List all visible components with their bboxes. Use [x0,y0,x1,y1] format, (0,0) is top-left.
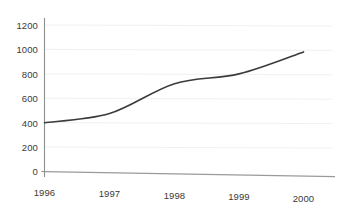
x-tick-label-2000: 2000 [284,193,324,204]
series-line-path [45,52,304,123]
y-tick-label-600: 600 [8,93,38,104]
x-tick-label-1998: 1998 [155,190,195,201]
data-series-1 [45,52,304,123]
y-tick-label-1200: 1200 [8,20,38,31]
y-tick-label-800: 800 [8,69,38,80]
x-axis [45,172,336,177]
y-tick-label-0: 0 [8,166,38,177]
y-tick-label-400: 400 [8,118,38,129]
chart-canvas [0,0,343,212]
y-tick-label-200: 200 [8,142,38,153]
x-tick-label-1996: 1996 [25,187,65,198]
horizontal-gridlines [44,25,332,148]
line-chart: 1200 1000 800 600 400 200 0 1996 1997 19… [0,0,343,212]
y-tick-label-1000: 1000 [8,44,38,55]
x-tick-label-1999: 1999 [219,191,259,202]
x-tick-label-1997: 1997 [90,188,130,199]
